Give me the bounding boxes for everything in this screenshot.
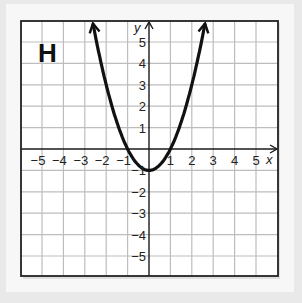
x-tick-label: −5 [31,153,46,168]
x-tick-label: 3 [210,153,217,168]
y-tick-label: −3 [131,206,146,221]
y-tick-label: 1 [139,121,146,136]
y-tick-label: −4 [131,228,146,243]
x-tick-label: −4 [52,153,67,168]
y-tick-label: −1 [131,163,146,178]
x-tick-label: −2 [95,153,110,168]
x-tick-label: −3 [73,153,88,168]
panel-label: H [38,38,57,68]
x-tick-label: 2 [188,153,195,168]
x-tick-label: 4 [231,153,238,168]
x-axis-label: x [265,152,273,167]
x-tick-label: 1 [167,153,174,168]
x-tick-label: 5 [252,153,259,168]
y-tick-label: 3 [139,78,146,93]
y-tick-label: 4 [139,56,146,71]
y-tick-label: −5 [131,249,146,264]
x-tick-label: −1 [116,153,131,168]
y-tick-label: −2 [131,185,146,200]
y-tick-label: 5 [139,35,146,50]
parabola-chart: −5−4−3−2−11234554321−1−2−3−4−5 H x y [0,0,302,303]
y-tick-label: 2 [139,99,146,114]
